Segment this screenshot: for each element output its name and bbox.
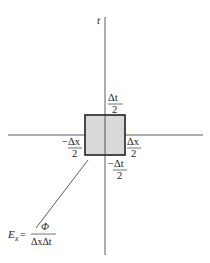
label-bottom-num: Δt bbox=[114, 158, 124, 169]
label-left-den: 2 bbox=[72, 148, 77, 159]
t-axis-label: t bbox=[97, 14, 101, 26]
label-top-num: Δt bbox=[108, 92, 118, 103]
formula-lhs-sub: x bbox=[14, 234, 19, 243]
finite-difference-cell-diagram: t Δt 2 − Δx 2 Δx 2 − Δt 2 E x = Φ ΔxΔt bbox=[0, 0, 210, 263]
label-bottom-den: 2 bbox=[117, 170, 122, 181]
label-left-neg-half-dx: − Δx 2 bbox=[62, 136, 82, 159]
formula-ex: E x = Φ ΔxΔt bbox=[7, 221, 56, 247]
formula-num: Φ bbox=[41, 221, 49, 232]
formula-den: ΔxΔt bbox=[31, 236, 52, 247]
label-top-den: 2 bbox=[112, 104, 117, 115]
label-right-den: 2 bbox=[131, 148, 136, 159]
formula-equals: = bbox=[20, 229, 26, 240]
label-bottom-neg-half-dt: − Δt 2 bbox=[108, 158, 127, 181]
leader-line bbox=[36, 160, 88, 228]
label-top-half-dt: Δt 2 bbox=[108, 92, 123, 115]
label-left-num: Δx bbox=[68, 136, 81, 147]
label-right-num: Δx bbox=[127, 136, 140, 147]
formula-lhs: E bbox=[7, 228, 15, 240]
label-right-half-dx: Δx 2 bbox=[127, 136, 141, 159]
